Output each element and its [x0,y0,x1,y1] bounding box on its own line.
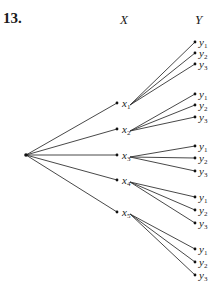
node-y-dot [194,248,197,251]
node-y-dot [194,157,197,160]
node-y-dot [194,52,197,55]
y-node-label: y3 [198,165,208,179]
edge-root-x1 [26,103,117,155]
node-x-dot [116,154,119,157]
edge-x5-y1 [130,214,195,249]
tree-diagram: y1y2y3y1y2y3y1y2y3y1y2y3y1y2y3x1x2x3x4x5 [0,0,217,298]
y-node-label: y2 [198,256,208,270]
node-y-dot [194,196,197,199]
edge-x5-y2 [130,214,195,262]
edge-root-x4 [26,155,117,180]
root-node-dot [24,153,28,157]
edge-root-x5 [26,155,117,212]
node-x-dot [116,211,119,214]
node-y-dot [194,145,197,148]
y-node-label: y1 [198,191,208,205]
edge-x1-y1 [130,42,195,105]
edge-x5-y3 [130,214,195,275]
node-y-dot [194,104,197,107]
edge-x3-y3 [130,157,195,171]
node-x-dot [116,179,119,182]
x-node-label: x2 [121,123,131,137]
node-y-dot [194,170,197,173]
edge-x2-y1 [130,94,195,131]
y-node-label: y2 [198,152,208,166]
edge-root-x2 [26,129,117,155]
y-node-label: y3 [198,269,208,283]
node-x-dot [116,102,119,105]
edge-x3-y1 [130,146,195,157]
node-y-dot [194,261,197,264]
node-y-dot [194,116,197,119]
y-node-label: y1 [198,243,208,257]
node-y-dot [194,93,197,96]
node-y-dot [194,41,197,44]
edge-x4-y3 [130,182,195,223]
node-y-dot [194,63,197,66]
y-node-label: y3 [198,111,208,125]
x-node-label: x1 [121,97,131,111]
edge-x4-y1 [130,182,195,197]
x-node-label: x3 [121,149,131,163]
y-node-label: y3 [198,217,208,231]
x-node-label: x4 [121,174,131,188]
edge-x2-y2 [130,105,195,131]
x-node-label: x5 [121,206,131,220]
node-y-dot [194,209,197,212]
edge-x4-y2 [130,182,195,210]
edge-x2-y3 [130,117,195,131]
edge-x3-y2 [130,157,195,158]
edge-x1-y3 [130,64,195,105]
edge-x1-y2 [130,53,195,105]
node-x-dot [116,128,119,131]
node-y-dot [194,274,197,277]
node-y-dot [194,222,197,225]
y-node-label: y2 [198,204,208,218]
